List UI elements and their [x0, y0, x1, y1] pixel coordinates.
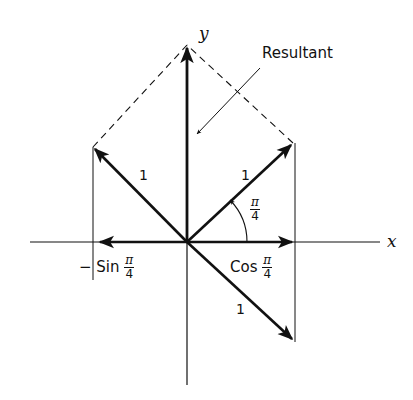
- vector-diagram: [0, 0, 413, 400]
- resultant-label: Resultant: [262, 46, 333, 61]
- angle-label: π4: [250, 196, 260, 222]
- label-upper-left: 1: [139, 168, 148, 182]
- neg-sin-label: − Sin π4: [79, 254, 134, 280]
- vector-upper-right: [187, 145, 291, 242]
- y-axis-label: y: [199, 25, 209, 42]
- x-axis-label: x: [387, 233, 397, 250]
- vector-upper-left: [95, 149, 187, 242]
- dashed-left: [93, 45, 187, 147]
- label-lower-right: 1: [236, 302, 245, 316]
- cos-label: Cos π4: [230, 254, 272, 280]
- label-upper-right: 1: [241, 168, 250, 182]
- resultant-pointer: [197, 68, 260, 134]
- angle-arc: [230, 200, 247, 242]
